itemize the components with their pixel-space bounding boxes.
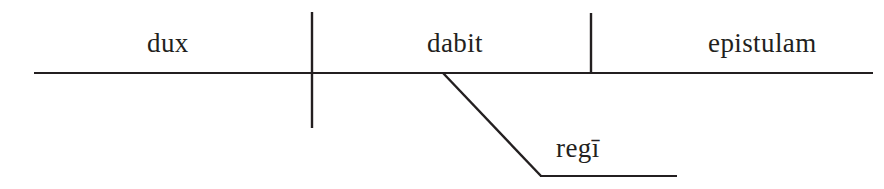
direct-object-label: epistulam (708, 30, 817, 57)
indirect-object-label: regī (556, 135, 600, 162)
indirect-object-slant-line (443, 73, 541, 176)
subject-label: dux (147, 30, 189, 57)
verb-label: dabit (427, 30, 483, 57)
sentence-diagram: dux dabit epistulam regī (0, 0, 884, 189)
